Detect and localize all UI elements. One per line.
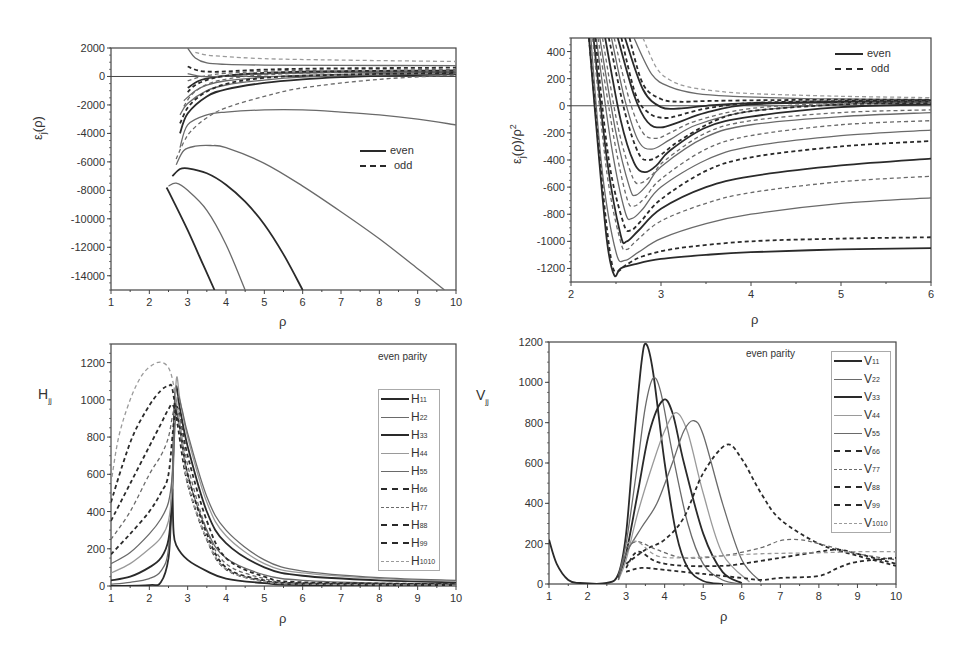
y-tick-label: 2000 [81,42,105,54]
x-tick-label: 4 [748,288,754,300]
legend-label: V [864,498,872,512]
legend-entry-H66: H66 [379,480,439,498]
legend-entry-H99: H99 [379,534,439,552]
legend-entry-H33: H33 [379,426,439,444]
legend-entry-V11: V11 [832,352,890,370]
y-tick-label: 0 [537,578,543,590]
y-tick-label: -600 [543,181,565,193]
y-tick-label: 1200 [519,336,543,348]
legend-epsrho: even odd [835,46,891,76]
y-tick-label: 400 [87,506,105,518]
x-tick-label: 8 [376,296,382,308]
x-tick-label: 4 [223,592,229,604]
legend-label: H [411,554,420,568]
legend-label: V [864,480,872,494]
y-tick-label: 200 [547,73,565,85]
annotation-even-parity: even parity [378,351,427,362]
x-tick-label: 6 [928,288,934,300]
x-tick-label: 3 [623,590,629,602]
legend-entry-odd: odd [360,158,414,173]
x-tick-label: 1 [546,590,552,602]
legend-vjj: V11V22V33V44V55V66V77V88V99V1010 [831,351,891,533]
x-tick-label: 5 [700,590,706,602]
legend-entry-even: even [360,143,414,158]
legend-entry-V1010: V1010 [832,514,890,532]
legend-swatch [834,379,862,380]
x-tick-label: 7 [338,592,344,604]
y-tick-label: 600 [525,457,543,469]
y-tick-label: 800 [525,417,543,429]
legend-entry-H88: H88 [379,516,439,534]
y-tick-label: -800 [543,208,565,220]
legend-swatch [834,415,862,416]
legend-label: V [864,372,872,386]
legend-entry-V55: V55 [832,424,890,442]
x-tick-label: 4 [662,590,668,602]
series-V77 [626,539,896,559]
x-tick-label: 6 [300,592,306,604]
legend-label: V [864,444,872,458]
series-even-7 [180,74,456,115]
legend-swatch [381,561,409,562]
y-tick-label: -6000 [77,156,105,168]
legend-swatch [381,471,409,472]
legend-swatch [834,396,862,398]
chart-eps: 1234567891020000-2000-4000-6000-8000-100… [0,0,480,330]
legend-entry-V77: V77 [832,460,890,478]
y-tick-label: -400 [543,154,565,166]
legend-label: H [411,536,420,550]
y-tick-label: -8000 [77,184,105,196]
x-tick-label: 5 [261,296,267,308]
legend-entry-even: even [835,46,891,61]
legend-swatch [834,433,862,434]
x-tick-label: 6 [739,590,745,602]
chart-vjj: 12345678910020040060080010001200 Vjj ρ e… [480,330,961,661]
legend-swatch [381,453,409,454]
legend-entry-H77: H77 [379,498,439,516]
legend-swatch [381,488,409,490]
legend-swatch [381,417,409,418]
x-axis-label-epsrho: ρ [751,312,758,327]
y-tick-label: 600 [87,468,105,480]
series-even-1 [167,188,215,290]
x-tick-label: 10 [890,590,902,602]
legend-swatch [381,524,409,526]
y-tick-label: -1000 [537,235,565,247]
x-tick-label: 2 [568,288,574,300]
x-tick-label: 7 [338,296,344,308]
y-axis-label-eps: εj(ρ) [30,116,48,140]
series-V44 [618,413,749,582]
x-tick-label: 2 [146,296,152,308]
y-tick-label: 400 [525,497,543,509]
legend-label: H [411,446,420,460]
y-tick-label: -14000 [71,270,105,282]
y-tick-label: 800 [87,431,105,443]
legend-label: V [864,462,872,476]
legend-swatch [381,434,409,436]
legend-entry-H1010: H1010 [379,552,439,570]
y-tick-label: 0 [559,100,565,112]
x-tick-label: 9 [415,296,421,308]
legend-entry-odd: odd [835,61,891,76]
x-tick-label: 6 [300,296,306,308]
legend-swatch [381,398,409,400]
y-tick-label: 0 [99,70,105,82]
legend-entry-H11: H11 [379,390,439,408]
chart-epsrho: 234564002000-200-400-600-800-1000-1200 ε… [480,0,961,330]
x-tick-label: 9 [854,590,860,602]
x-tick-label: 8 [816,590,822,602]
x-tick-label: 1 [108,296,114,308]
annotation-even-parity: even parity [746,348,795,359]
legend-label: V [864,354,872,368]
legend-label: V [864,408,872,422]
y-axis-label-epsrho: εj(ρ)/ρ2 [508,124,527,164]
legend-entry-H55: H55 [379,462,439,480]
legend-label: H [411,410,420,424]
legend-swatch [834,504,862,506]
y-tick-label: -200 [543,127,565,139]
x-tick-label: 2 [146,592,152,604]
series-even-5 [180,110,456,148]
chart-hjj: 12345678910020040060080010001200 Hjj ρ e… [0,330,480,661]
x-tick-label: 5 [838,288,844,300]
y-axis-label-vjj: Vjj [476,387,489,406]
